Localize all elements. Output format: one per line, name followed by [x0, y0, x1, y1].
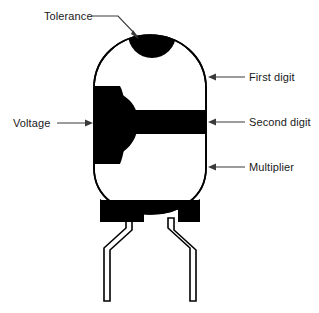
arrowhead-multiplier — [208, 164, 216, 171]
lead-right — [168, 218, 196, 301]
label-voltage: Voltage — [13, 117, 50, 129]
arrowhead-second-digit — [208, 119, 216, 126]
label-tolerance: Tolerance — [44, 10, 93, 22]
callout-line-tolerance — [92, 16, 137, 36]
capacitor-colour-code-figure: Tolerance Voltage First digit Second dig… — [0, 0, 319, 313]
leads-group — [104, 218, 196, 301]
band-voltage-extension — [86, 86, 126, 164]
capacitor-diagram — [0, 0, 319, 313]
arrowhead-voltage — [85, 120, 93, 127]
lead-left — [104, 218, 132, 301]
capacitor-body-group — [86, 34, 212, 222]
arrowhead-first-digit — [208, 74, 216, 81]
label-first-digit: First digit — [249, 71, 295, 83]
label-second-digit: Second digit — [249, 116, 311, 128]
label-multiplier: Multiplier — [249, 161, 294, 173]
